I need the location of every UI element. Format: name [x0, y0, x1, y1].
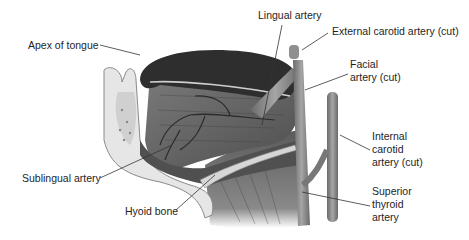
label-text: artery (cut)	[372, 156, 423, 169]
label-apex-of-tongue: Apex of tongue	[28, 39, 99, 52]
label-sublingual-artery: Sublingual artery	[22, 172, 101, 185]
label-facial-artery: Facial artery (cut)	[350, 58, 401, 84]
label-internal-carotid-artery: Internal carotid artery (cut)	[372, 130, 423, 169]
label-text: artery (cut)	[350, 71, 401, 84]
internal-carotid-cut	[327, 92, 338, 222]
label-text: Sublingual artery	[22, 172, 101, 185]
label-external-carotid-artery: External carotid artery (cut)	[332, 25, 459, 38]
label-lingual-artery: Lingual artery	[258, 9, 322, 22]
label-text: Superior	[372, 185, 412, 198]
label-text: Internal	[372, 130, 423, 143]
label-text: Hyoid bone	[125, 205, 178, 218]
label-text: External carotid artery (cut)	[332, 25, 459, 38]
label-text: artery	[372, 211, 412, 224]
label-text: thyroid	[372, 198, 412, 211]
label-superior-thyroid-artery: Superior thyroid artery	[372, 185, 412, 224]
external-carotid-cut	[289, 45, 299, 59]
anatomy-diagram: Apex of tongue Lingual artery External c…	[0, 0, 469, 240]
label-hyoid-bone: Hyoid bone	[125, 205, 178, 218]
label-text: carotid	[372, 143, 423, 156]
label-text: Apex of tongue	[28, 39, 99, 52]
label-text: Facial	[350, 58, 401, 71]
label-text: Lingual artery	[258, 9, 322, 22]
